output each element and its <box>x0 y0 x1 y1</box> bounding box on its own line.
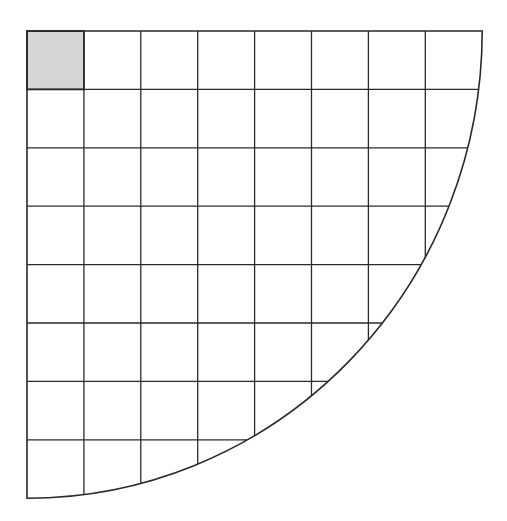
page <box>0 0 507 521</box>
quarter-circle-grid-figure <box>0 0 507 521</box>
quarter-grid-svg <box>0 0 507 521</box>
shaded-cell <box>27 31 84 89</box>
